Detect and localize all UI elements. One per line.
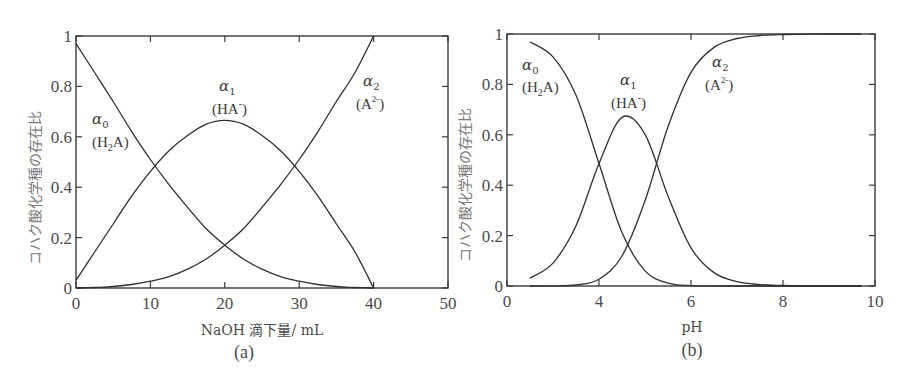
y-tick-label: 0.6 (51, 128, 72, 147)
series-line-alpha0 (530, 42, 861, 286)
x-tick-label: 0 (503, 292, 512, 311)
y-tick-label: 0.4 (482, 176, 504, 195)
y-tick-label: 0.2 (51, 229, 72, 248)
svg-text:(A2-): (A2-) (356, 94, 384, 113)
y-axis-label-a: コハク酸化学種の存在比 (27, 111, 43, 265)
svg-text:α1: α1 (620, 71, 637, 91)
y-tick-label: 0.8 (482, 75, 503, 94)
x-tick-label: 50 (440, 294, 457, 313)
y-tick-label: 0.4 (51, 178, 73, 197)
chart-panel-a: 0102030405000.20.40.60.81 コハク酸化学種の存在比 Na… (27, 27, 457, 363)
x-axis-label-b: pH (681, 319, 702, 335)
ticks-b: 04681000.20.40.60.81 (482, 25, 884, 311)
x-tick-label: 20 (216, 294, 233, 313)
series-line-alpha1 (530, 116, 861, 286)
x-tick-label: 10 (867, 292, 884, 311)
caption-a: (a) (234, 342, 254, 363)
svg-text:α2: α2 (363, 72, 380, 92)
y-tick-label: 0.6 (482, 126, 503, 145)
series-line-alpha2 (530, 34, 861, 286)
x-tick-label: 4 (595, 292, 604, 311)
x-tick-label: 40 (365, 294, 382, 313)
svg-text:α2: α2 (712, 53, 729, 73)
series-line-alpha2 (76, 36, 374, 288)
svg-text:(H2A): (H2A) (522, 79, 559, 98)
annotation-alpha1-b: α1 (HA-) (611, 71, 646, 112)
x-tick-label: 0 (72, 294, 81, 313)
plot-frame-a (76, 36, 448, 288)
svg-text:(H2A): (H2A) (92, 134, 129, 153)
annotation-alpha0-a: α0 (H2A) (92, 110, 129, 153)
svg-text:(HA-): (HA-) (212, 98, 247, 118)
annotation-alpha2-b: α2 (A2-) (705, 53, 733, 94)
caption-b: (b) (682, 340, 703, 361)
annotation-alpha1-a: α1 (HA-) (212, 77, 247, 118)
svg-text:α0: α0 (522, 56, 539, 76)
y-tick-label: 1 (495, 25, 504, 44)
y-tick-label: 0 (495, 277, 504, 296)
ticks-a: 0102030405000.20.40.60.81 (51, 27, 457, 313)
x-tick-label: 10 (142, 294, 159, 313)
y-tick-label: 0.8 (51, 77, 72, 96)
curves-b (530, 34, 861, 286)
svg-text:(HA-): (HA-) (611, 92, 646, 112)
svg-text:(A2-): (A2-) (705, 75, 733, 94)
x-tick-label: 8 (779, 292, 788, 311)
y-tick-label: 1 (64, 27, 73, 46)
x-tick-label: 30 (291, 294, 308, 313)
annotation-alpha0-b: α0 (H2A) (522, 56, 559, 98)
chart-panel-b: 04681000.20.40.60.81 コハク酸化学種の存在比 pH (b) … (457, 25, 884, 361)
y-tick-label: 0.2 (482, 227, 503, 246)
y-axis-label-b: コハク酸化学種の存在比 (457, 108, 473, 262)
x-axis-label-a: NaOH 滴下量/ mL (201, 322, 323, 338)
svg-text:α0: α0 (92, 110, 109, 130)
curves-a (76, 36, 374, 288)
annotation-alpha2-a: α2 (A2-) (356, 72, 384, 113)
x-tick-label: 6 (687, 292, 696, 311)
y-tick-label: 0 (64, 279, 73, 298)
svg-text:α1: α1 (219, 77, 236, 97)
figure: 0102030405000.20.40.60.81 コハク酸化学種の存在比 Na… (0, 0, 908, 374)
